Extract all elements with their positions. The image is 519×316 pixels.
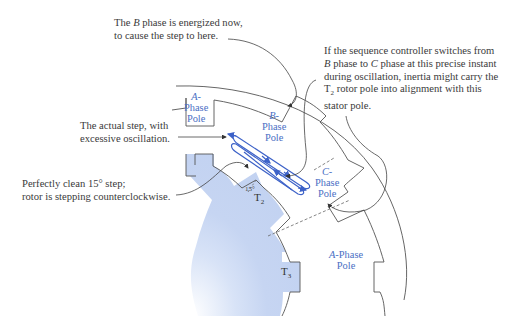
stator-pole-a-bottom: A-Phase Pole [329,249,363,271]
stator-pole-b: B- Phase Pole [262,110,286,143]
rotor-body [186,154,300,316]
annotation-sequence-controller: If the sequence controller switches from… [324,45,498,113]
annotation-b-phase-energized: The B phase is energized now, to cause t… [114,17,243,43]
leader-b-phase [228,39,296,106]
annotation-actual-step: The actual step, with excessive oscillat… [80,120,170,146]
stator-pole-a-top: A- Phase Pole [184,91,208,124]
stepper-diagram: The B phase is energized now, to cause t… [0,0,519,316]
angle-label-15deg: 15° [245,185,255,193]
rotor-pole-t2: T2 [254,191,264,206]
rotor-pole-t3: T3 [281,265,291,280]
annotation-clean-step: Perfectly clean 15° step; rotor is stepp… [22,178,170,204]
leader-sequence-top [286,80,316,176]
alignment-dash-c [268,200,350,236]
stator-pole-c: C- Phase Pole [315,166,339,199]
